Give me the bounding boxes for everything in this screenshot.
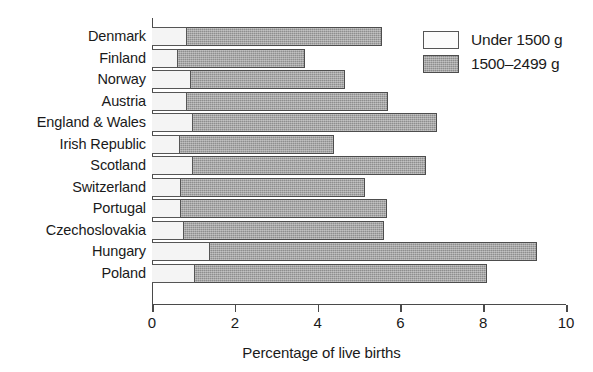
category-label: Poland [0,264,146,283]
bar-row [152,135,334,154]
x-tick-mark [483,305,485,312]
bar-segment-under-1500 [152,113,193,132]
x-tick-mark [318,305,320,312]
bar-segment-under-1500 [152,156,193,175]
bar-row [152,113,437,132]
x-tick-label: 2 [231,314,239,332]
bar-segment-1500-2499 [195,264,486,283]
bar-row [152,49,305,68]
x-tick-mark [152,305,154,312]
bar-segment-under-1500 [152,178,181,197]
legend-swatch-under-1500 [423,31,459,49]
bar-segment-under-1500 [152,135,180,154]
x-axis-title: Percentage of live births [0,344,593,361]
x-tick-mark [400,305,402,312]
x-tick-label: 10 [558,314,575,332]
bar-segment-1500-2499 [187,27,382,46]
bar-row [152,70,345,89]
bar-row [152,27,382,46]
legend-label-under-1500: Under 1500 g [471,31,563,49]
category-label: Switzerland [0,178,146,197]
x-tick-mark [235,305,237,312]
bar-segment-1500-2499 [187,92,388,111]
category-label: Irish Republic [0,135,146,154]
legend-swatch-1500-2499 [423,55,459,73]
x-axis-title-text: Percentage of live births [242,344,400,361]
bar-segment-1500-2499 [180,135,334,154]
category-label: Austria [0,92,146,111]
bar-segment-1500-2499 [193,156,427,175]
category-label: Denmark [0,27,146,46]
category-label: England & Wales [0,113,146,132]
bar-segment-under-1500 [152,49,178,68]
x-tick-label: 0 [148,314,156,332]
x-tick-mark [566,305,568,312]
chart-legend: Under 1500 g 1500–2499 g [423,28,593,76]
bar-row [152,242,537,261]
bar-segment-under-1500 [152,264,195,283]
bar-segment-under-1500 [152,70,191,89]
category-label: Norway [0,70,146,89]
bar-row [152,221,384,240]
bar-segment-under-1500 [152,27,187,46]
bar-row [152,199,387,218]
category-label: Hungary [0,242,146,261]
bar-segment-1500-2499 [184,221,384,240]
legend-item-under-1500: Under 1500 g [423,28,593,51]
category-label: Portugal [0,199,146,218]
x-tick-label: 8 [479,314,487,332]
bar-segment-1500-2499 [210,242,537,261]
bar-row [152,264,487,283]
bar-row [152,156,426,175]
bar-segment-under-1500 [152,199,181,218]
legend-label-1500-2499: 1500–2499 g [471,55,559,73]
bar-segment-1500-2499 [181,178,365,197]
bar-segment-1500-2499 [178,49,305,68]
x-tick-label: 4 [313,314,321,332]
bar-segment-under-1500 [152,242,210,261]
bar-segment-1500-2499 [191,70,345,89]
bar-segment-under-1500 [152,221,184,240]
category-label: Czechoslovakia [0,221,146,240]
x-axis-ticks: 0246810 [152,305,566,335]
x-tick-label: 6 [396,314,404,332]
bar-segment-1500-2499 [181,199,386,218]
bar-segment-under-1500 [152,92,187,111]
category-axis-labels: DenmarkFinlandNorwayAustriaEngland & Wal… [0,27,146,285]
bar-row [152,178,365,197]
bar-row [152,92,388,111]
stacked-bar-chart: DenmarkFinlandNorwayAustriaEngland & Wal… [0,0,593,372]
legend-item-1500-2499: 1500–2499 g [423,52,593,75]
category-label: Finland [0,49,146,68]
category-label: Scotland [0,156,146,175]
bar-segment-1500-2499 [193,113,437,132]
